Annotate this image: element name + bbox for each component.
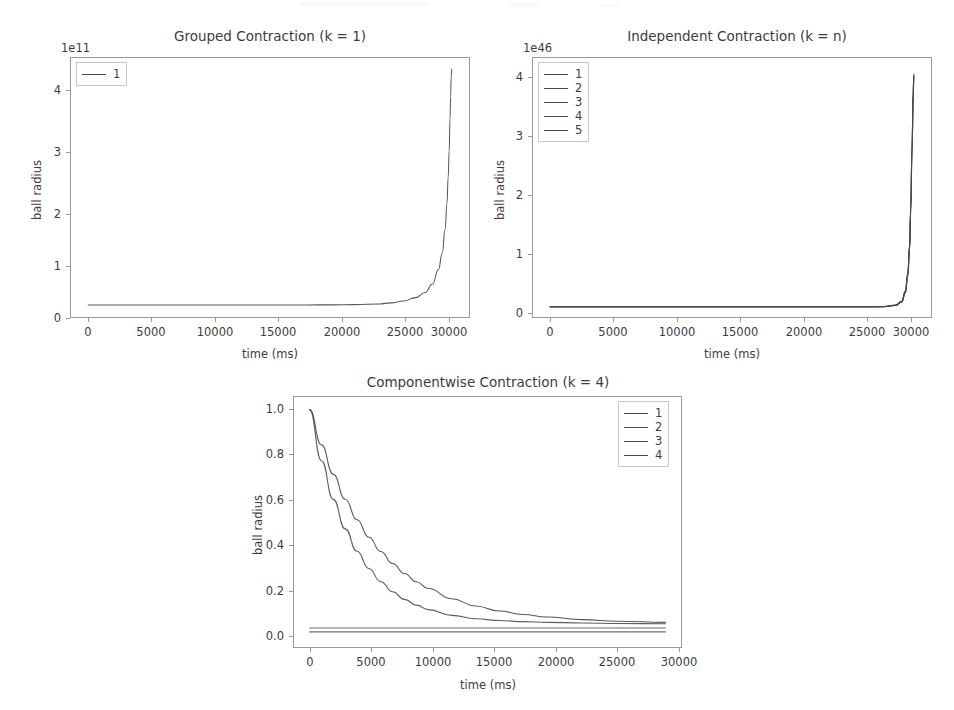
legend-subplot-2[interactable]: 1 2 3 4 5 <box>538 62 589 142</box>
legend-line-icon <box>544 88 568 89</box>
legend-item: 4 <box>624 448 662 462</box>
legend-item-label: 2 <box>655 420 662 434</box>
legend-item-label: 2 <box>575 81 582 95</box>
legend-item-label: 3 <box>575 95 582 109</box>
legend-item-label: 4 <box>655 448 662 462</box>
legend-line-icon <box>544 116 568 117</box>
legend-item: 2 <box>624 420 662 434</box>
legend-item-label: 1 <box>575 67 582 81</box>
legend-line-icon <box>624 441 648 442</box>
series-line <box>88 69 452 305</box>
legend-item-label: 4 <box>575 109 582 123</box>
legend-item: 1 <box>544 67 582 81</box>
legend-item: 2 <box>544 81 582 95</box>
series-line <box>550 76 914 307</box>
series-lines-subplot-2 <box>477 0 954 370</box>
legend-item-label: 3 <box>655 434 662 448</box>
matplotlib-figure: Grouped Contraction (k = 1) 1e11 ball ra… <box>0 0 954 710</box>
legend-item: 3 <box>544 95 582 109</box>
legend-item: 1 <box>624 406 662 420</box>
subplot-componentwise-contraction: Componentwise Contraction (k = 4) ball r… <box>240 368 710 710</box>
legend-item-label: 1 <box>655 406 662 420</box>
legend-item-label: 1 <box>113 67 120 81</box>
series-line <box>550 77 914 307</box>
legend-line-icon <box>544 102 568 103</box>
legend-item: 3 <box>624 434 662 448</box>
legend-subplot-3[interactable]: 1 2 3 4 <box>618 401 669 467</box>
legend-item-label: 5 <box>575 123 582 137</box>
legend-line-icon <box>624 413 648 414</box>
legend-line-icon <box>82 74 106 75</box>
series-line <box>550 78 914 307</box>
legend-item: 1 <box>82 67 120 81</box>
legend-line-icon <box>544 130 568 131</box>
subplot-independent-contraction: Independent Contraction (k = n) 1e46 bal… <box>477 0 954 370</box>
subplot-grouped-contraction: Grouped Contraction (k = 1) 1e11 ball ra… <box>0 0 500 370</box>
legend-item: 4 <box>544 109 582 123</box>
legend-item: 5 <box>544 123 582 137</box>
series-lines-subplot-1 <box>0 0 500 370</box>
series-line <box>550 75 914 307</box>
legend-line-icon <box>624 427 648 428</box>
series-line <box>310 410 666 624</box>
legend-subplot-1[interactable]: 1 <box>76 62 127 86</box>
legend-line-icon <box>544 74 568 75</box>
series-line <box>310 410 666 623</box>
legend-line-icon <box>624 455 648 456</box>
series-line <box>550 74 914 307</box>
